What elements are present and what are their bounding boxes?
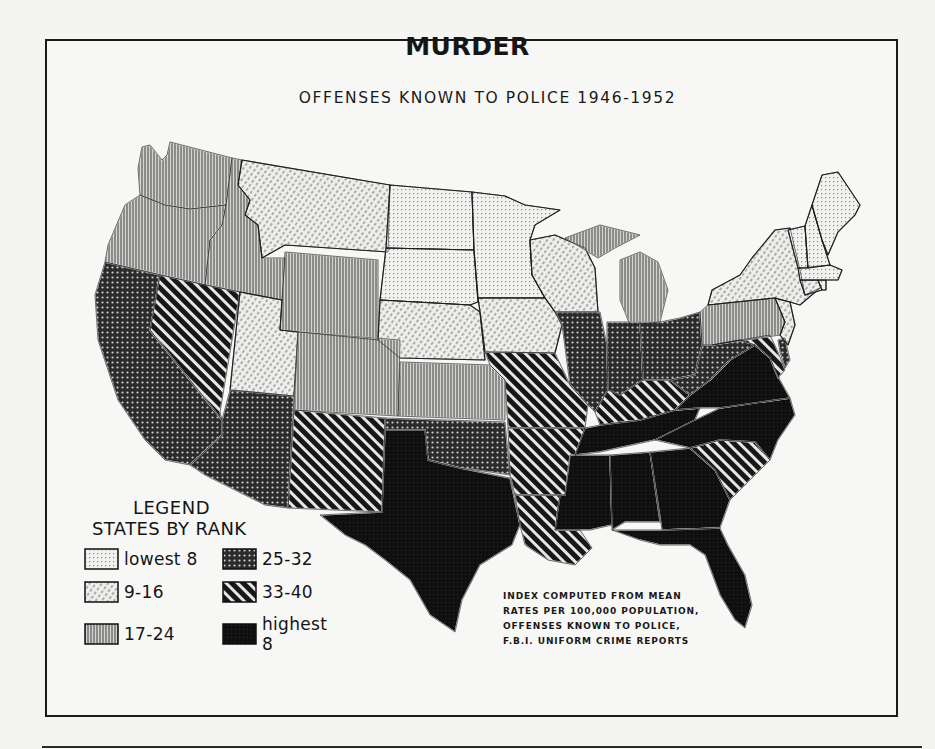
legend-swatch-solid-black-icon <box>222 623 257 645</box>
legend-swatch-dark-dots-icon <box>222 548 257 570</box>
source-note-line: RATES PER 100,000 POPULATION, <box>503 604 699 619</box>
legend-item-25-32: 25-32 <box>222 548 342 570</box>
source-note-line: OFFENSES KNOWN TO POLICE, <box>503 619 699 634</box>
state-south-dakota <box>380 248 478 305</box>
legend-swatch-vertical-lines-icon <box>84 623 119 645</box>
state-washington <box>138 142 232 209</box>
legend-item-highest-8: highest 8 <box>222 614 342 654</box>
legend-subheading: STATES BY RANK <box>92 518 344 540</box>
legend-label: 17-24 <box>124 624 175 644</box>
legend-heading: LEGEND <box>84 498 259 518</box>
legend-item-33-40: 33-40 <box>222 581 342 603</box>
state-montana <box>238 160 390 258</box>
state-kansas <box>398 362 505 420</box>
legend-item-17-24: 17-24 <box>84 614 222 654</box>
legend-swatch-heavy-stripes-icon <box>222 581 257 603</box>
legend-items: lowest 8 25-32 9-16 33-40 17-24 highest … <box>84 548 344 654</box>
legend-label: 9-16 <box>124 582 164 602</box>
state-wyoming <box>280 252 378 340</box>
legend-label: 33-40 <box>262 582 313 602</box>
legend: LEGEND STATES BY RANK lowest 8 25-32 9-1… <box>84 498 344 654</box>
legend-label: highest 8 <box>262 614 342 654</box>
state-north-dakota <box>386 185 474 250</box>
source-note-line: INDEX COMPUTED FROM MEAN <box>503 589 699 604</box>
legend-item-lowest-8: lowest 8 <box>84 548 222 570</box>
legend-label: 25-32 <box>262 549 313 569</box>
legend-swatch-dots-grid-icon <box>84 548 119 570</box>
legend-label: lowest 8 <box>124 549 198 569</box>
state-colorado <box>294 332 400 416</box>
source-note: INDEX COMPUTED FROM MEAN RATES PER 100,0… <box>503 589 699 649</box>
legend-swatch-light-diagonal-icon <box>84 581 119 603</box>
state-iowa <box>478 298 562 353</box>
state-new-mexico <box>288 410 385 512</box>
legend-item-9-16: 9-16 <box>84 581 222 603</box>
source-note-line: F.B.I. UNIFORM CRIME REPORTS <box>503 634 699 649</box>
